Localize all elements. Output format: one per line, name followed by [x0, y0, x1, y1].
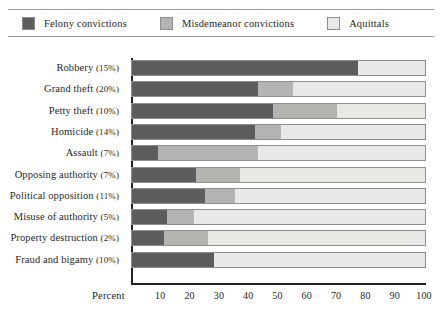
legend-swatch-misdemeanor-icon: [160, 17, 173, 30]
bar-segment-misdemeanor: [164, 231, 208, 245]
x-axis-tick-labels: 102030405060708090100: [0, 290, 442, 306]
bar-segment-felony: [132, 231, 164, 245]
legend-label-misdemeanor: Misdemeanor convictions: [182, 18, 294, 29]
bar-segment-felony: [132, 168, 196, 182]
x-tick-label: 10: [155, 290, 165, 301]
bar-segment-misdemeanor: [167, 210, 193, 224]
bar-segment-aquittals: [235, 189, 425, 203]
stacked-bar: [131, 60, 426, 76]
x-tick-label: 20: [184, 290, 194, 301]
bar-segment-misdemeanor: [158, 146, 258, 160]
legend-item-acquittals: Aquittals: [327, 17, 389, 30]
plot-area: [131, 58, 426, 285]
bar-segment-aquittals: [281, 125, 425, 139]
bar-row: [131, 124, 426, 140]
category-label: Fraud and bigamy (10%): [0, 252, 125, 268]
category-label: Property destruction (2%): [0, 230, 125, 246]
stacked-bar: [131, 124, 426, 140]
bar-segment-misdemeanor: [273, 104, 337, 118]
bar-segment-felony: [132, 61, 358, 75]
bar-segment-felony: [132, 253, 214, 267]
bar-segment-aquittals: [194, 210, 425, 224]
bar-row: [131, 145, 426, 161]
stacked-bar: [131, 230, 426, 246]
bar-segment-felony: [132, 189, 205, 203]
bar-segment-aquittals: [208, 231, 425, 245]
bar-segment-aquittals: [293, 82, 425, 96]
legend-row: Felony convictions Misdemeanor convictio…: [8, 10, 434, 36]
bar-row: [131, 103, 426, 119]
bar-segment-misdemeanor: [258, 82, 293, 96]
x-tick-label: 70: [331, 290, 341, 301]
legend-label-felony: Felony convictions: [44, 18, 127, 29]
bar-segment-felony: [132, 104, 273, 118]
legend-item-felony: Felony convictions: [22, 17, 127, 30]
bar-segment-misdemeanor: [255, 125, 281, 139]
stacked-bar: [131, 188, 426, 204]
stacked-bar: [131, 145, 426, 161]
bar-segment-misdemeanor: [196, 168, 240, 182]
stacked-bar: [131, 252, 426, 268]
bar-rows: [131, 58, 426, 283]
bar-segment-misdemeanor: [205, 189, 234, 203]
bar-row: [131, 81, 426, 97]
stacked-bar: [131, 103, 426, 119]
x-tick-label: 100: [416, 290, 432, 301]
bar-segment-aquittals: [258, 146, 425, 160]
bar-row: [131, 252, 426, 268]
bar-row: [131, 209, 426, 225]
bar-row: [131, 167, 426, 183]
bar-segment-felony: [132, 210, 167, 224]
bar-segment-aquittals: [240, 168, 425, 182]
bar-segment-aquittals: [337, 104, 425, 118]
bar-row: [131, 230, 426, 246]
category-label: Grand theft (20%): [0, 81, 125, 97]
x-tick-label: 50: [272, 290, 282, 301]
bar-segment-aquittals: [358, 61, 425, 75]
bar-segment-felony: [132, 146, 158, 160]
bar-row: [131, 188, 426, 204]
legend-swatch-acquittals-icon: [327, 17, 340, 30]
x-tick-label: 40: [243, 290, 253, 301]
x-tick-label: 30: [214, 290, 224, 301]
x-tick-label: 90: [389, 290, 399, 301]
bar-segment-aquittals: [214, 253, 425, 267]
category-label: Political opposition (11%): [0, 188, 125, 204]
bar-segment-felony: [132, 125, 255, 139]
x-axis-line: [131, 283, 426, 285]
stacked-bar: [131, 167, 426, 183]
stacked-bar: [131, 209, 426, 225]
chart-legend: Felony convictions Misdemeanor convictio…: [8, 9, 434, 37]
category-label: Assault (7%): [0, 145, 125, 161]
bar-segment-felony: [132, 82, 258, 96]
category-label: Misuse of authority (5%): [0, 209, 125, 225]
stacked-bar-chart: Felony convictions Misdemeanor convictio…: [0, 0, 442, 314]
category-label: Robbery (15%): [0, 60, 125, 76]
legend-label-acquittals: Aquittals: [349, 18, 389, 29]
x-tick-label: 80: [360, 290, 370, 301]
category-label: Homicide (14%): [0, 124, 125, 140]
category-label: Opposing authority (7%): [0, 167, 125, 183]
category-label: Petty theft (10%): [0, 103, 125, 119]
x-tick-label: 60: [302, 290, 312, 301]
stacked-bar: [131, 81, 426, 97]
category-axis-labels: Robbery (15%)Grand theft (20%)Petty thef…: [0, 58, 125, 285]
bar-row: [131, 60, 426, 76]
legend-swatch-felony-icon: [22, 17, 35, 30]
legend-item-misdemeanor: Misdemeanor convictions: [160, 17, 294, 30]
